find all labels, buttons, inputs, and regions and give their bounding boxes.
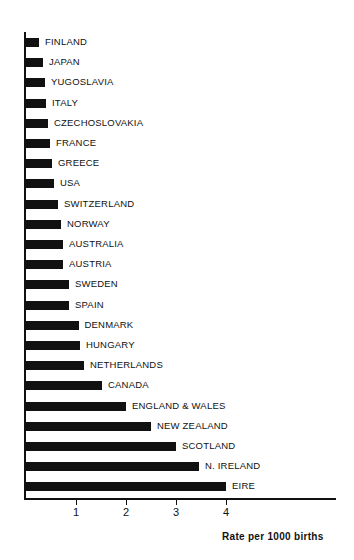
x-tick-mark [76,500,77,505]
bar-label: YUGOSLAVIA [51,76,114,88]
plot-area: FINLANDJAPANYUGOSLAVIAITALYCZECHOSLOVAKI… [0,0,354,560]
bar-label: SWITZERLAND [64,198,134,210]
bar [26,442,176,451]
bar-label: SPAIN [75,299,104,311]
x-tick-label: 3 [166,506,186,518]
bar [26,200,58,209]
bar [26,78,45,87]
bar [26,38,39,47]
x-tick-mark [126,500,127,505]
bar [26,99,46,108]
bar-label: AUSTRALIA [69,238,124,250]
bar [26,179,54,188]
bar-label: NETHERLANDS [90,359,163,371]
x-tick-mark [176,500,177,505]
bar [26,482,226,491]
bar-label: NEW ZEALAND [157,420,228,432]
x-axis-title: Rate per 1000 births [222,531,324,542]
bar [26,462,199,471]
bar [26,260,63,269]
bar-label: GREECE [58,157,99,169]
bar-label: SWEDEN [75,278,118,290]
bar-label: HUNGARY [86,339,135,351]
bar-label: NORWAY [67,218,110,230]
bar-chart: FINLANDJAPANYUGOSLAVIAITALYCZECHOSLOVAKI… [0,0,354,560]
bar [26,119,48,128]
bar-label: CZECHOSLOVAKIA [54,117,143,129]
bar-label: CANADA [108,379,149,391]
bar-label: FRANCE [56,137,96,149]
x-tick-label: 4 [216,506,236,518]
bar-label: N. IRELAND [205,460,260,472]
bar [26,139,50,148]
x-tick-label: 2 [116,506,136,518]
bar [26,240,63,249]
x-axis-line [24,498,336,500]
bar [26,381,102,390]
bar [26,422,151,431]
bar-label: FINLAND [45,36,87,48]
bar-label: ITALY [52,97,78,109]
bar [26,220,61,229]
bar [26,402,126,411]
bar-label: USA [60,177,80,189]
x-tick-mark [226,500,227,505]
bar-label: EIRE [232,480,255,492]
bar [26,361,84,370]
x-tick-label: 1 [66,506,86,518]
bar-label: SCOTLAND [182,440,235,452]
bar-label: ENGLAND & WALES [132,400,225,412]
bar [26,341,80,350]
bar-label: JAPAN [49,56,80,68]
bar [26,280,69,289]
bar [26,159,52,168]
bar [26,301,69,310]
bar [26,58,43,67]
bar-label: DENMARK [85,319,134,331]
bar-label: AUSTRIA [69,258,112,270]
bar [26,321,79,330]
